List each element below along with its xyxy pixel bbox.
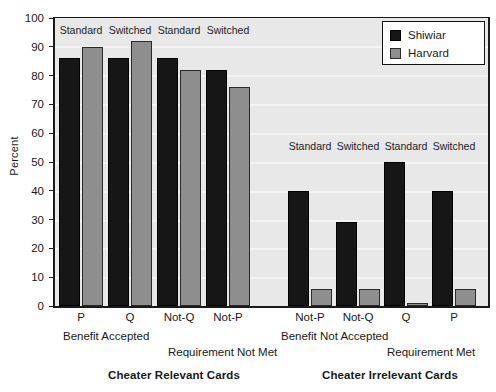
y-tick-mark	[49, 133, 54, 134]
y-tick-mark	[49, 75, 54, 76]
bar-chart-figure: Percent 1009080706050403020100 StandardS…	[0, 0, 496, 392]
y-tick-label: 0	[14, 301, 44, 311]
group-title-right: Cheater Irrelevant Cards	[322, 369, 458, 381]
bar-harvard-p	[455, 289, 476, 306]
annotation-requirement-met: Requirement Met	[387, 346, 475, 358]
y-tick-label: 70	[14, 99, 44, 109]
bar-shiwiar-q	[108, 58, 129, 306]
x-axis-line	[53, 306, 490, 308]
y-tick-label: 80	[14, 71, 44, 81]
y-tick-label: 90	[14, 42, 44, 52]
y-tick-label: 60	[14, 128, 44, 138]
y-tick-label: 100	[14, 13, 44, 23]
bar-shiwiar-p	[59, 58, 80, 306]
y-tick-mark	[49, 18, 54, 19]
y-tick-mark	[49, 306, 54, 307]
legend-swatch-icon	[390, 48, 401, 59]
legend-entry-shiwiar: Shiwiar	[390, 27, 446, 43]
y-tick-label: 20	[14, 243, 44, 253]
bar-harvard-q	[407, 303, 428, 306]
bar-shiwiar-notp	[288, 191, 309, 306]
y-tick-mark	[49, 104, 54, 105]
bar-harvard-notp	[229, 87, 250, 306]
bar-harvard-notq	[359, 289, 380, 306]
legend-swatch-icon	[390, 30, 401, 41]
annotation-requirement-not-met: Requirement Not Met	[168, 346, 277, 358]
y-tick-mark	[49, 190, 54, 191]
bar-shiwiar-q	[384, 162, 405, 306]
x-tick-label: Not-P	[198, 311, 258, 323]
bar-shiwiar-p	[432, 191, 453, 306]
chart-legend: Shiwiar Harvard	[382, 21, 485, 65]
y-tick-label: 30	[14, 215, 44, 225]
y-tick-label: 40	[14, 186, 44, 196]
bar-harvard-p	[82, 47, 103, 306]
bar-shiwiar-notp	[206, 70, 227, 306]
annotation-benefit-not-accepted: Benefit Not Accepted	[281, 330, 388, 342]
y-tick-mark	[49, 162, 54, 163]
bar-harvard-notq	[180, 70, 201, 306]
bar-harvard-notp	[311, 289, 332, 306]
bar-shiwiar-notq	[157, 58, 178, 306]
legend-label: Shiwiar	[408, 30, 446, 41]
y-tick-mark	[49, 46, 54, 47]
in-plot-caption: Switched	[194, 24, 262, 36]
legend-label: Harvard	[408, 48, 449, 59]
group-title-left: Cheater Relevant Cards	[108, 369, 240, 381]
legend-entry-harvard: Harvard	[390, 45, 449, 61]
x-tick-label: P	[424, 311, 484, 323]
y-tick-mark	[49, 219, 54, 220]
y-tick-label: 50	[14, 157, 44, 167]
bar-shiwiar-notq	[336, 222, 357, 306]
bar-harvard-q	[131, 41, 152, 306]
plot-right-border	[488, 17, 490, 307]
annotation-benefit-accepted: Benefit Accepted	[63, 330, 149, 342]
y-tick-mark	[49, 248, 54, 249]
in-plot-caption: Switched	[420, 140, 488, 152]
y-tick-label: 10	[14, 272, 44, 282]
y-tick-mark	[49, 277, 54, 278]
plot-top-border	[53, 17, 490, 18]
